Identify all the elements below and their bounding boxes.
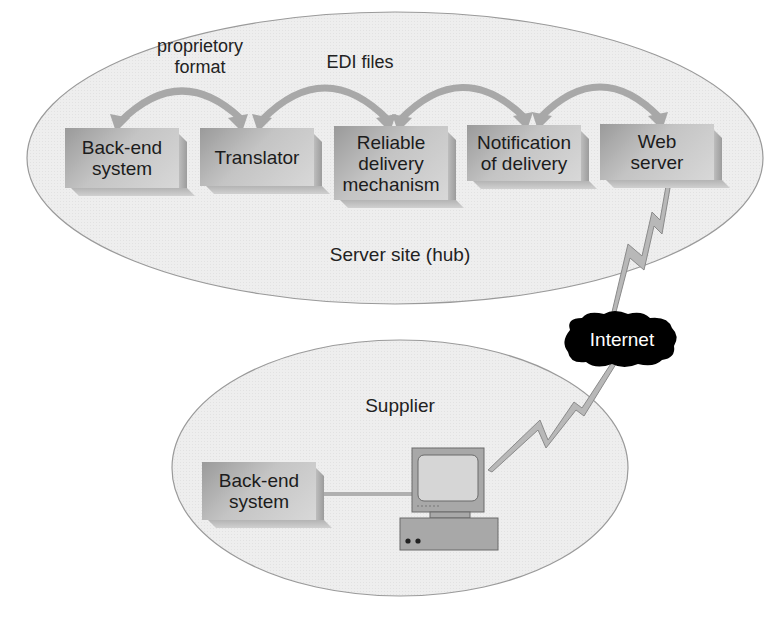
proprietary-line1: proprietory	[145, 36, 255, 57]
box-label: Back-end	[219, 470, 299, 491]
internet-label: Internet	[572, 329, 672, 351]
box-label: system	[219, 491, 299, 512]
box-backend-system: Back-endsystem	[65, 128, 187, 196]
box-reliable-delivery: Reliabledeliverymechanism	[334, 126, 456, 208]
computer-icon	[400, 448, 498, 550]
box-label: system	[82, 158, 162, 179]
box-label: Notification	[477, 132, 571, 153]
box-notification-delivery: Notificationof delivery	[467, 125, 589, 189]
box-web-server: Webserver	[600, 124, 722, 188]
diagram-canvas	[0, 0, 779, 618]
box-label: Back-end	[82, 137, 162, 158]
proprietary-line2: format	[145, 57, 255, 78]
supplier-label: Supplier	[340, 395, 460, 416]
box-translator: Translator	[200, 128, 322, 194]
box-label: server	[631, 152, 684, 173]
box-label: delivery	[342, 153, 439, 174]
box-label: mechanism	[342, 174, 439, 195]
supplier-connector	[322, 492, 414, 496]
box-label: of delivery	[477, 153, 571, 174]
edi-files-label: EDI files	[320, 52, 400, 73]
proprietary-format-label: proprietory format	[145, 36, 255, 78]
server-site-label: Server site (hub)	[300, 244, 500, 265]
box-label: Reliable	[342, 132, 439, 153]
box-label: Web	[631, 131, 684, 152]
box-supplier-backend: Back-endsystem	[202, 462, 324, 528]
box-label: Translator	[215, 147, 300, 168]
